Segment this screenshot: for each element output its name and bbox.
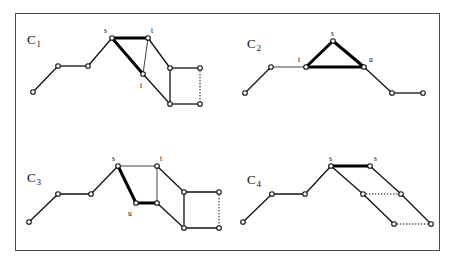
vertex-c3-w bbox=[217, 226, 222, 231]
panel-label-c2: C2 bbox=[247, 36, 261, 52]
edge-a-b bbox=[29, 194, 58, 222]
graph-c1 bbox=[31, 36, 203, 107]
graph-c2 bbox=[243, 39, 426, 96]
figure-root: C1sttC2stuC3stuC4ss bbox=[0, 0, 459, 269]
vertex-label-c3-u-2: u bbox=[128, 210, 132, 218]
vertex-c1-a bbox=[31, 90, 36, 95]
edge-a-b bbox=[243, 194, 272, 222]
vertex-c3-t bbox=[155, 164, 160, 169]
edge-a-b bbox=[245, 67, 271, 93]
panel-name: C bbox=[247, 36, 256, 51]
edge-c-s1 bbox=[305, 166, 331, 194]
panel-subscript: 4 bbox=[256, 179, 261, 189]
vertex-c1-q bbox=[198, 66, 203, 71]
edge-t_top-p bbox=[148, 38, 170, 68]
vertex-label-c2-s-0: s bbox=[331, 30, 334, 38]
vertex-c3-u bbox=[134, 201, 139, 206]
edge-m1-n1 bbox=[363, 194, 394, 224]
edge-t_mid-r bbox=[143, 74, 170, 104]
graph-c3 bbox=[27, 164, 222, 231]
edge-a-b bbox=[33, 66, 58, 92]
vertex-c2-f bbox=[421, 91, 426, 96]
vertex-label-c2-u-2: u bbox=[369, 56, 373, 64]
vertex-c3-q bbox=[217, 190, 222, 195]
edge-c-s bbox=[88, 38, 112, 66]
vertex-c4-c bbox=[303, 192, 308, 197]
vertex-c4-n1 bbox=[392, 222, 397, 227]
vertex-c3-r bbox=[182, 226, 187, 231]
vertex-c1-s bbox=[110, 36, 115, 41]
edge-s-u bbox=[333, 41, 364, 67]
edge-u-e bbox=[364, 67, 392, 93]
vertex-c2-a bbox=[243, 91, 248, 96]
vertex-label-c4-s-0: s bbox=[329, 155, 332, 163]
vertex-c4-s1 bbox=[329, 164, 334, 169]
vertex-c4-b bbox=[270, 192, 275, 197]
edge-v-r bbox=[157, 203, 184, 228]
vertex-c3-c bbox=[89, 192, 94, 197]
vertex-label-c1-t-1: t bbox=[151, 27, 153, 35]
edge-t-s bbox=[306, 41, 333, 67]
vertex-c2-b bbox=[269, 65, 274, 70]
vertex-label-c2-t-1: t bbox=[298, 56, 300, 64]
graph-c4 bbox=[241, 164, 434, 227]
vertex-c4-m1 bbox=[361, 192, 366, 197]
panel-subscript: 2 bbox=[256, 43, 261, 53]
vertex-c3-a bbox=[27, 220, 32, 225]
panel-name: C bbox=[27, 170, 36, 185]
edge-s-t_mid bbox=[112, 38, 143, 74]
vertex-label-c4-s-1: s bbox=[374, 155, 377, 163]
vertex-label-c1-t-2: t bbox=[140, 82, 142, 90]
panel-name: C bbox=[247, 172, 256, 187]
edge-t-p bbox=[157, 166, 184, 192]
vertex-c1-b bbox=[56, 64, 61, 69]
edge-s1-m1 bbox=[331, 166, 363, 194]
vertex-c2-u bbox=[362, 65, 367, 70]
panel-label-c3: C3 bbox=[27, 170, 41, 186]
graph-canvas bbox=[0, 0, 459, 269]
vertex-c3-b bbox=[56, 192, 61, 197]
vertex-c2-t bbox=[304, 65, 309, 70]
vertex-c2-e bbox=[390, 91, 395, 96]
vertex-c3-v bbox=[155, 201, 160, 206]
panel-subscript: 3 bbox=[36, 177, 41, 187]
edge-c-s bbox=[91, 166, 118, 194]
vertex-c4-a bbox=[241, 220, 246, 225]
vertex-label-c3-t-1: t bbox=[160, 155, 162, 163]
edge-s-u bbox=[118, 166, 136, 203]
edge-s2-m2 bbox=[370, 166, 401, 194]
vertex-c3-s bbox=[116, 164, 121, 169]
vertex-c2-s bbox=[331, 39, 336, 44]
vertex-c1-t_mid bbox=[141, 72, 146, 77]
vertex-c1-w bbox=[198, 102, 203, 107]
panel-label-c1: C1 bbox=[27, 32, 41, 48]
vertex-c3-p bbox=[182, 190, 187, 195]
vertex-c4-m2 bbox=[399, 192, 404, 197]
vertex-c1-t_top bbox=[146, 36, 151, 41]
edge-m2-n2 bbox=[401, 194, 431, 224]
vertex-c1-p bbox=[168, 66, 173, 71]
vertex-c1-r bbox=[168, 102, 173, 107]
panel-subscript: 1 bbox=[36, 39, 41, 49]
edge-t_top-t_mid bbox=[143, 38, 148, 74]
vertex-c1-c bbox=[86, 64, 91, 69]
vertex-c4-n2 bbox=[429, 222, 434, 227]
vertex-label-c3-s-0: s bbox=[112, 155, 115, 163]
vertex-label-c1-s-0: s bbox=[104, 27, 107, 35]
panel-name: C bbox=[27, 32, 36, 47]
vertex-c4-s2 bbox=[368, 164, 373, 169]
panel-label-c4: C4 bbox=[247, 172, 261, 188]
